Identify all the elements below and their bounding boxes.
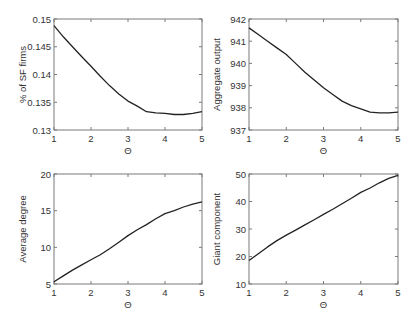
x-tick-label: 2 <box>88 287 93 298</box>
series-line-giant-component <box>249 175 398 260</box>
x-tick-label: 5 <box>395 287 400 298</box>
x-axis-label: Θ <box>124 145 131 156</box>
y-axis-label: Average degree <box>17 195 28 262</box>
panel-giant-component: 123451020304050ΘGiant component <box>211 169 401 311</box>
y-tick-label: 30 <box>235 224 246 235</box>
y-tick-label: 50 <box>235 169 246 180</box>
y-tick-label: 0.13 <box>33 125 52 136</box>
x-tick-label: 1 <box>51 287 56 298</box>
series-line-average-degree <box>54 202 202 282</box>
axes-frame <box>249 174 398 284</box>
x-tick-label: 3 <box>321 133 326 144</box>
y-tick-label: 20 <box>235 251 246 262</box>
panel-sf-firms: 123450.130.1350.140.1450.15Θ% of SF firm… <box>17 14 205 157</box>
x-tick-label: 1 <box>246 287 251 298</box>
x-axis-label: Θ <box>320 145 327 156</box>
x-tick-label: 1 <box>246 133 251 144</box>
x-tick-label: 3 <box>125 133 130 144</box>
x-tick-label: 4 <box>162 133 167 144</box>
x-axis-label: Θ <box>124 299 131 310</box>
y-tick-label: 0.135 <box>27 97 51 108</box>
y-tick-label: 939 <box>230 80 246 91</box>
x-tick-label: 4 <box>358 287 363 298</box>
y-tick-label: 20 <box>40 169 51 180</box>
x-tick-label: 3 <box>321 287 326 298</box>
figure: 123450.130.1350.140.1450.15Θ% of SF firm… <box>0 0 419 324</box>
y-tick-label: 0.15 <box>33 14 52 25</box>
y-tick-label: 0.14 <box>33 69 52 80</box>
x-tick-label: 5 <box>199 287 204 298</box>
y-axis-label: % of SF firms <box>17 46 28 103</box>
x-tick-label: 4 <box>162 287 167 298</box>
series-line-aggregate-output <box>249 28 398 113</box>
x-axis-label: Θ <box>320 299 327 310</box>
panel-average-degree: 123455101520ΘAverage degree <box>17 169 205 311</box>
x-tick-label: 5 <box>199 133 204 144</box>
x-tick-label: 2 <box>284 133 289 144</box>
x-tick-label: 2 <box>88 133 93 144</box>
y-tick-label: 10 <box>40 242 51 253</box>
x-tick-label: 3 <box>125 287 130 298</box>
series-line-sf-firms <box>54 26 202 115</box>
axes-frame <box>249 19 398 130</box>
y-axis-label: Giant component <box>211 192 222 265</box>
y-tick-label: 0.145 <box>27 41 51 52</box>
panel-aggregate-output: 12345937938939940941942ΘAggregate output <box>211 14 401 157</box>
y-axis-label: Aggregate output <box>211 38 222 111</box>
y-tick-label: 940 <box>230 58 246 69</box>
y-tick-label: 941 <box>230 36 246 47</box>
x-tick-label: 4 <box>358 133 363 144</box>
x-tick-label: 5 <box>395 133 400 144</box>
x-tick-label: 2 <box>284 287 289 298</box>
y-tick-label: 10 <box>235 279 246 290</box>
y-tick-label: 15 <box>40 205 51 216</box>
y-tick-label: 942 <box>230 14 246 25</box>
y-tick-label: 5 <box>46 279 51 290</box>
axes-frame <box>54 19 202 130</box>
x-tick-label: 1 <box>51 133 56 144</box>
y-tick-label: 938 <box>230 102 246 113</box>
y-tick-label: 40 <box>235 196 246 207</box>
y-tick-label: 937 <box>230 125 246 136</box>
